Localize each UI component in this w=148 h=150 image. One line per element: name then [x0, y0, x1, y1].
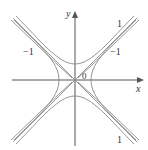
y-axis-label: y — [65, 8, 71, 19]
curve-label-top-right: 1 — [117, 18, 122, 29]
y-axis-arrow-icon — [72, 11, 78, 18]
x-axis-label: x — [135, 83, 141, 94]
level-curves-plot: y x 0 1 −1 −1 1 — [0, 0, 148, 150]
level-curve-outer-bl — [11, 82, 72, 140]
curve-label-bottom-right: 1 — [117, 134, 122, 145]
level-curve-outer-tr — [78, 20, 139, 78]
level-curve-outer-tl — [11, 20, 72, 78]
level-curve-outer-br — [78, 82, 139, 140]
curve-label-upper-right: −1 — [110, 46, 121, 57]
curve-label-upper-left: −1 — [23, 46, 34, 57]
origin-label: 0 — [82, 71, 87, 81]
